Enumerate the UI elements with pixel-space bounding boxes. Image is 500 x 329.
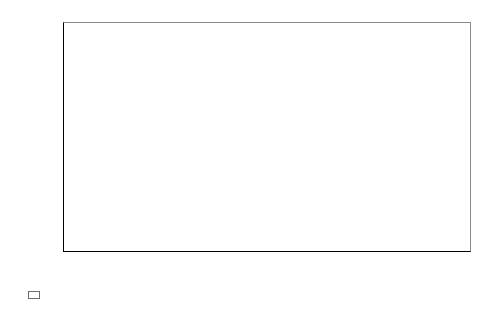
chart-legend [28,291,40,299]
line-series-reactivated-day [64,23,471,252]
x-axis [63,252,471,292]
plot-area [63,22,471,252]
y-axis [0,0,59,329]
chart-container [0,0,500,329]
